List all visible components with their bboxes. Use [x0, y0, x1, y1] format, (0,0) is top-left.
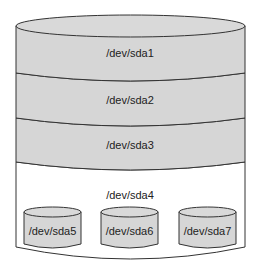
partition-sda6-label: /dev/sda6: [106, 225, 154, 237]
disk-partition-diagram: /dev/sda1 /dev/sda2 /dev/sda3 /dev/sda4 …: [0, 0, 256, 280]
logical-partition-sda7[interactable]: /dev/sda7: [179, 207, 236, 248]
partition-sda5-label: /dev/sda5: [29, 225, 77, 237]
partition-sda2-label: /dev/sda2: [106, 94, 154, 106]
cylinder-top: [101, 207, 158, 217]
partition-sda4-label: /dev/sda4: [106, 189, 154, 201]
logical-partition-sda5[interactable]: /dev/sda5: [24, 207, 81, 248]
partition-sda7-label: /dev/sda7: [184, 225, 232, 237]
disk-top-ellipse: [16, 15, 245, 37]
cylinder-top: [179, 207, 236, 217]
partition-sda1-label: /dev/sda1: [106, 47, 154, 59]
logical-partition-sda6[interactable]: /dev/sda6: [101, 207, 158, 248]
cylinder-top: [24, 207, 81, 217]
partition-sda3-label: /dev/sda3: [106, 139, 154, 151]
